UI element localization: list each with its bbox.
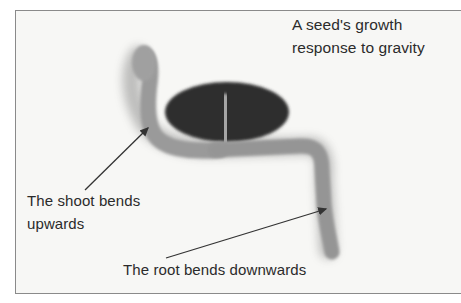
title-line-1: A seed's growth [292, 13, 425, 36]
seed-stalk [225, 98, 226, 145]
title-line-2: response to gravity [292, 36, 425, 59]
shoot-label-line-2: upwards [27, 212, 140, 235]
root [215, 146, 332, 252]
shoot-tip [132, 45, 156, 81]
shoot-label-line-1: The shoot bends [27, 189, 140, 212]
diagram-title: A seed's growth response to gravity [292, 13, 425, 59]
root-label: The root bends downwards [123, 258, 306, 281]
shoot-arrow [85, 128, 148, 190]
root-arrow [166, 209, 326, 258]
shoot-label: The shoot bends upwards [27, 189, 140, 235]
